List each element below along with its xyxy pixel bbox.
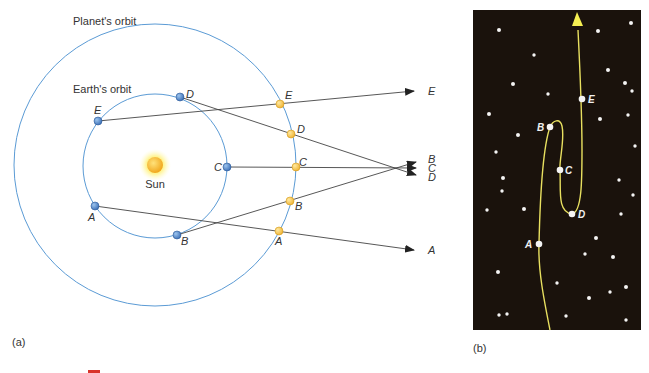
sightline-label-d: D xyxy=(428,171,436,183)
sky-label-e: E xyxy=(588,94,595,105)
planet-b xyxy=(286,197,294,205)
sightline-b xyxy=(177,162,416,235)
sun-label: Sun xyxy=(145,178,165,190)
sun-icon xyxy=(139,149,171,181)
panel-a: Planet's orbit Earth's orbit Sun E B C D… xyxy=(12,15,436,348)
planet-label-e: E xyxy=(285,89,293,101)
earth-label-e: E xyxy=(94,104,102,116)
sightline-label-e: E xyxy=(428,85,436,97)
planet-label-a: A xyxy=(274,235,282,247)
earth-label-b: B xyxy=(181,235,188,247)
retrograde-motion-diagram: Planet's orbit Earth's orbit Sun E B C D… xyxy=(0,0,649,373)
earth-d xyxy=(176,93,184,101)
planet-label-d: D xyxy=(297,123,305,135)
panel-b-label: (b) xyxy=(473,342,486,354)
sightline-c xyxy=(227,167,416,168)
earth-label-d: D xyxy=(186,88,194,100)
planet-e xyxy=(276,100,284,108)
sky-label-b: B xyxy=(537,122,544,133)
sky-point-b xyxy=(547,124,554,131)
earth-label-c: C xyxy=(214,161,222,173)
sky-label-d: D xyxy=(578,209,585,220)
earth-a xyxy=(91,202,99,210)
planet-a xyxy=(275,227,283,235)
earth-orbit-label: Earth's orbit xyxy=(73,83,131,95)
sky-label-c: C xyxy=(565,165,573,176)
sky-label-a: A xyxy=(524,239,532,250)
sky-point-a xyxy=(536,241,543,248)
sky-point-c xyxy=(557,167,564,174)
earth-b xyxy=(173,231,181,239)
sky-point-d xyxy=(569,211,576,218)
earth-c xyxy=(223,163,231,171)
earth-label-a: A xyxy=(87,211,95,223)
sky-point-e xyxy=(579,96,586,103)
sightline-e xyxy=(98,91,414,121)
earth-e xyxy=(94,117,102,125)
planet-d xyxy=(287,130,295,138)
panel-a-label: (a) xyxy=(12,336,25,348)
planet-label-c: C xyxy=(299,156,307,168)
sightline-label-a: A xyxy=(427,244,435,256)
panel-b: A B C D E (b) xyxy=(473,10,641,354)
planet-orbit-label: Planet's orbit xyxy=(73,15,136,27)
sightline-a xyxy=(95,206,414,250)
planet-label-b: B xyxy=(295,200,302,212)
